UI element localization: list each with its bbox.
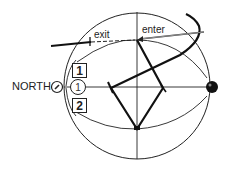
north-label: NORTH <box>12 81 51 92</box>
position-box-2: 2 <box>72 98 87 113</box>
lower-arc <box>76 96 207 129</box>
sun-ball-highlight <box>209 84 212 87</box>
sun-ball-icon <box>206 81 218 93</box>
position-circle-1: 1 <box>70 79 86 95</box>
connector-lower-2 <box>68 112 72 160</box>
exit-dashed-line <box>91 40 135 42</box>
exit-solid-line <box>51 42 91 46</box>
position-box-1: 1 <box>72 63 87 78</box>
tick-bottom <box>134 126 140 130</box>
exit-label: exit <box>94 30 110 40</box>
enter-label: enter <box>142 25 165 35</box>
